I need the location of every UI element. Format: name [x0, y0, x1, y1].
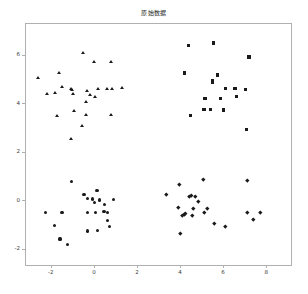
diamond-marker-icon: [177, 206, 181, 210]
square-marker-icon: [183, 71, 186, 74]
diamond-marker-icon: [180, 213, 184, 217]
circle-marker-icon: [103, 203, 106, 206]
circle-marker-icon: [102, 210, 105, 213]
plot-axes-frame: [25, 23, 292, 266]
circle-marker-icon: [70, 180, 73, 183]
square-marker-icon: [235, 95, 238, 98]
triangle-marker-icon: [57, 71, 61, 74]
triangle-marker-icon: [72, 109, 76, 112]
square-marker-icon: [212, 41, 215, 44]
y-tick-mark: [22, 249, 25, 250]
diamond-marker-icon: [245, 178, 249, 182]
circle-marker-icon: [58, 237, 61, 240]
triangle-marker-icon: [105, 87, 109, 90]
circle-marker-icon: [66, 243, 69, 246]
diamond-marker-icon: [177, 182, 181, 186]
circle-marker-icon: [106, 219, 109, 222]
x-tick-label: 0: [84, 269, 104, 276]
triangle-marker-icon: [109, 60, 113, 63]
circle-marker-icon: [95, 189, 98, 192]
square-marker-icon: [202, 108, 205, 111]
square-marker-icon: [219, 97, 222, 100]
triangle-marker-icon: [84, 113, 88, 116]
square-marker-icon: [245, 128, 248, 131]
circle-marker-icon: [112, 198, 115, 201]
triangle-marker-icon: [55, 114, 59, 117]
square-marker-icon: [222, 108, 225, 111]
y-tick-mark: [22, 55, 25, 56]
diamond-marker-icon: [258, 211, 262, 215]
y-tick-label: 4: [2, 100, 20, 107]
diamond-marker-icon: [251, 217, 255, 221]
circle-marker-icon: [86, 197, 89, 200]
circle-marker-icon: [98, 198, 101, 201]
triangle-marker-icon: [96, 87, 100, 90]
circle-marker-icon: [94, 211, 97, 214]
y-tick-label: 0: [2, 197, 20, 204]
triangle-marker-icon: [93, 95, 97, 98]
diamond-marker-icon: [196, 199, 200, 203]
circle-marker-icon: [86, 211, 89, 214]
circle-marker-icon: [93, 201, 96, 204]
circle-marker-icon: [82, 193, 85, 196]
square-marker-icon: [209, 108, 212, 111]
triangle-marker-icon: [85, 89, 89, 92]
figure-canvas: 原始数据 -202468 -20246: [0, 0, 308, 294]
y-tick-mark: [22, 152, 25, 153]
x-tick-mark: [266, 265, 267, 268]
x-tick-mark: [180, 265, 181, 268]
diamond-marker-icon: [205, 206, 209, 210]
y-tick-label: 2: [2, 148, 20, 155]
triangle-marker-icon: [71, 92, 75, 95]
x-tick-mark: [137, 265, 138, 268]
square-marker-icon: [224, 87, 227, 90]
x-tick-label: -2: [41, 269, 61, 276]
triangle-marker-icon: [88, 93, 92, 96]
diamond-marker-icon: [212, 221, 216, 225]
circle-marker-icon: [108, 225, 111, 228]
square-marker-icon: [211, 81, 214, 84]
diamond-marker-icon: [192, 206, 196, 210]
chart-title: 原始数据: [0, 9, 308, 17]
diamond-marker-icon: [202, 178, 206, 182]
diamond-marker-icon: [245, 210, 249, 214]
circle-marker-icon: [60, 211, 63, 214]
square-marker-icon: [244, 88, 247, 91]
circle-marker-icon: [106, 211, 109, 214]
triangle-marker-icon: [120, 86, 124, 89]
circle-marker-icon: [53, 224, 56, 227]
x-tick-mark: [51, 265, 52, 268]
triangle-marker-icon: [60, 85, 64, 88]
diamond-marker-icon: [193, 194, 197, 198]
scatter-points-layer: [26, 24, 291, 265]
square-marker-icon: [204, 97, 207, 100]
triangle-marker-icon: [109, 113, 113, 116]
triangle-marker-icon: [69, 137, 73, 140]
diamond-marker-icon: [223, 225, 227, 229]
triangle-marker-icon: [45, 92, 49, 95]
x-tick-label: 6: [213, 269, 233, 276]
y-tick-mark: [22, 200, 25, 201]
y-tick-mark: [22, 103, 25, 104]
y-tick-label: 6: [2, 51, 20, 58]
circle-marker-icon: [44, 211, 47, 214]
y-tick-label: -2: [2, 245, 20, 252]
triangle-marker-icon: [92, 60, 96, 63]
x-tick-label: 4: [170, 269, 190, 276]
triangle-marker-icon: [53, 91, 57, 94]
x-tick-label: 2: [127, 269, 147, 276]
diamond-marker-icon: [178, 232, 182, 236]
diamond-marker-icon: [202, 210, 206, 214]
x-tick-mark: [223, 265, 224, 268]
circle-marker-icon: [86, 229, 89, 232]
square-marker-icon: [187, 44, 190, 47]
x-tick-mark: [94, 265, 95, 268]
triangle-marker-icon: [110, 87, 114, 90]
x-tick-label: 8: [256, 269, 276, 276]
circle-marker-icon: [96, 229, 99, 232]
triangle-marker-icon: [81, 51, 85, 54]
diamond-marker-icon: [191, 214, 195, 218]
diamond-marker-icon: [165, 192, 169, 196]
triangle-marker-icon: [36, 76, 40, 79]
triangle-marker-icon: [84, 100, 88, 103]
